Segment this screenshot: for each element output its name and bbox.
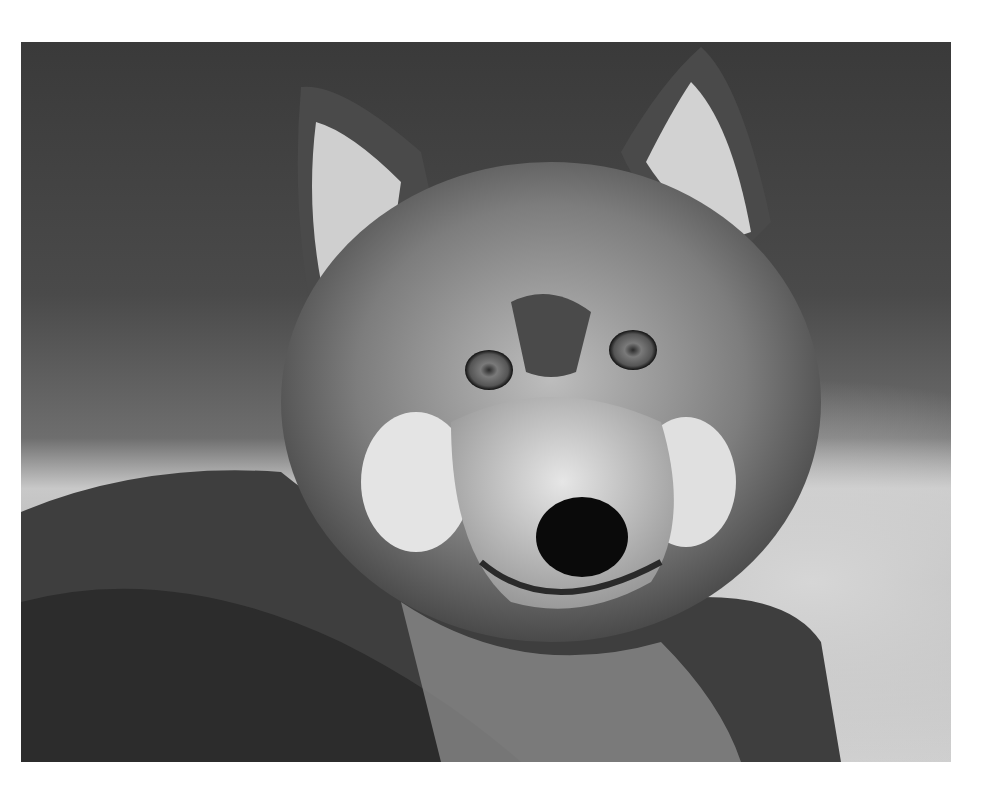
wolf-photo [21,42,951,762]
wolf-illustration [21,42,951,762]
left-eye [465,350,513,390]
nose [536,497,628,577]
right-eye [609,330,657,370]
